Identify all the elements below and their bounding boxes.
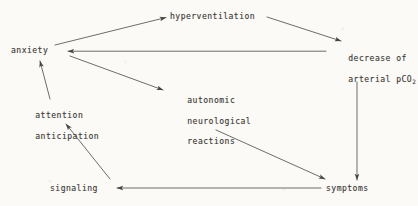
diagram-canvas: anxiety hyperventilation decrease of art… bbox=[0, 0, 418, 206]
node-decrease-arterial-pco2: decrease of arterial pCO2 bbox=[327, 43, 416, 97]
node-decrease-line1: decrease of bbox=[348, 53, 407, 63]
node-decrease-line2: arterial pCO bbox=[348, 74, 412, 84]
edge-anxiety-to-hyperventilation bbox=[55, 18, 166, 46]
node-symptoms: symptoms bbox=[326, 183, 369, 193]
node-decrease-subscript: 2 bbox=[412, 77, 416, 84]
node-autonomic-neurological-reactions: autonomic neurological reactions bbox=[166, 85, 251, 156]
node-signaling: signaling bbox=[50, 183, 98, 193]
node-attention-line1: attention bbox=[35, 110, 83, 120]
node-hyperventilation: hyperventilation bbox=[170, 11, 255, 21]
edge-hyperventilation-to-decrease bbox=[267, 17, 341, 41]
node-autonomic-line3: reactions bbox=[187, 136, 235, 146]
node-attention-anticipation: attention anticipation bbox=[14, 100, 99, 151]
edge-attention-to-anxiety bbox=[40, 61, 50, 99]
node-attention-line2: anticipation bbox=[35, 131, 99, 141]
edge-anxiety-to-autonomic bbox=[70, 56, 163, 90]
node-autonomic-line2: neurological bbox=[187, 116, 251, 126]
node-anxiety: anxiety bbox=[11, 45, 48, 55]
node-autonomic-line1: autonomic bbox=[187, 95, 235, 105]
